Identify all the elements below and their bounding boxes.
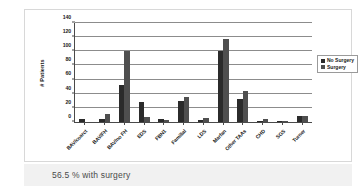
bar-group [253, 23, 273, 122]
bar[interactable] [184, 97, 190, 122]
bar-group [273, 23, 293, 122]
y-tick-label: 120 [63, 29, 71, 34]
x-axis-label-text: CHD [255, 128, 267, 140]
x-axis-category-labels: BAV/coarctBAV/FHBAV/no FHEDSFBN1Familial… [74, 126, 312, 162]
bar[interactable] [124, 51, 130, 122]
bar-group [194, 23, 214, 122]
caption-text: 56.5 % with surgery [52, 170, 130, 180]
x-axis-label-text: Marfan [211, 128, 227, 144]
x-tick-mark [163, 122, 164, 125]
bar-group [134, 23, 154, 122]
bar-group [174, 23, 194, 122]
y-tick-label: 140 [63, 15, 71, 20]
y-axis-title: # Patients [37, 23, 47, 123]
x-tick-mark [302, 122, 303, 125]
y-tick-label: 20 [65, 100, 71, 105]
plot-area: 020406080100120140 [74, 23, 312, 123]
x-tick-mark [262, 122, 263, 125]
x-axis-label-text: FBN1 [154, 128, 168, 142]
x-label-cell: Familial [173, 126, 193, 162]
x-tick-mark [183, 122, 184, 125]
x-axis-label-text: BAV/coarct [65, 128, 88, 151]
y-tick-label: 40 [65, 86, 71, 91]
legend-swatch-icon [321, 59, 325, 63]
bar-group [154, 23, 174, 122]
x-tick-mark [282, 122, 283, 125]
x-tick-mark [203, 122, 204, 125]
y-tick-label: 80 [65, 58, 71, 63]
x-label-cell: BAV/coarct [74, 126, 94, 162]
legend-item[interactable]: No Surgery [321, 58, 354, 63]
chart-panel: # Patients 020406080100120140 BAV/coarct… [24, 9, 352, 162]
bar[interactable] [223, 39, 229, 122]
x-label-cell: Other TAAs [233, 126, 253, 162]
bar-group [213, 23, 233, 122]
x-axis-label-text: SGS [275, 128, 287, 140]
x-axis-label-text: Familial [170, 128, 187, 145]
bar-group [75, 23, 95, 122]
bar-group [292, 23, 312, 122]
x-label-cell: LDS [193, 126, 213, 162]
bar-group [233, 23, 253, 122]
y-tick-label: 100 [63, 43, 71, 48]
caption-bar: 56.5 % with surgery [24, 164, 352, 186]
legend-swatch-icon [321, 65, 325, 69]
x-axis-label-text: LDS [196, 128, 207, 139]
x-tick-mark [223, 122, 224, 125]
bar[interactable] [243, 91, 249, 122]
x-label-cell: EDS [133, 126, 153, 162]
x-label-cell: SGS [272, 126, 292, 162]
x-tick-mark [124, 122, 125, 125]
x-tick-mark [242, 122, 243, 125]
x-axis-label-text: Turner [291, 128, 306, 143]
bar-group [95, 23, 115, 122]
legend-item[interactable]: Surgery [321, 65, 354, 70]
y-tick-label: 60 [65, 72, 71, 77]
x-label-cell: Turner [292, 126, 312, 162]
x-label-cell: CHD [252, 126, 272, 162]
bar-series-container [75, 23, 312, 122]
x-axis-label-text: EDS [136, 128, 148, 140]
y-tick-label: 0 [68, 114, 71, 119]
legend-label: No Surgery [327, 58, 354, 63]
x-label-cell: FBN1 [153, 126, 173, 162]
x-label-cell: BAV/no FH [114, 126, 134, 162]
slide-root: # Patients 020406080100120140 BAV/coarct… [0, 0, 364, 195]
x-tick-mark [84, 122, 85, 125]
x-tick-mark [104, 122, 105, 125]
legend-label: Surgery [327, 65, 346, 70]
chart-legend[interactable]: No SurgerySurgery [317, 55, 358, 73]
bar-group [115, 23, 135, 122]
x-axis-label-text: BAV/FH [91, 128, 108, 145]
